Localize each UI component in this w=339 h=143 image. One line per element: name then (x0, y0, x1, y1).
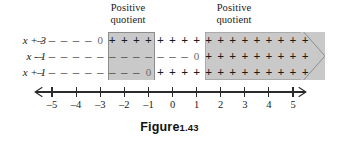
sign-cell-plus: + (239, 48, 251, 64)
sign-cell-minus: – (34, 64, 46, 80)
sign-cell-minus: – (82, 48, 94, 64)
sign-cell-plus: + (179, 64, 191, 80)
tick-label: 3 (234, 98, 256, 112)
figure-caption: Figure1.43 (0, 120, 339, 134)
sign-cell-plus: + (251, 64, 263, 80)
sign-cell-minus: – (46, 48, 58, 64)
sign-cell-plus: + (299, 48, 311, 64)
tick-label: 4 (258, 98, 280, 112)
sign-cell-zero: 0 (142, 64, 154, 80)
tick-label: 5 (282, 98, 304, 112)
sign-cell-plus: + (287, 48, 299, 64)
sign-cell-minus: – (34, 48, 46, 64)
sign-cell-plus: + (227, 64, 239, 80)
sign-cell-plus: + (239, 32, 251, 48)
sign-cell-minus: – (70, 32, 82, 48)
sign-cell-plus: + (263, 48, 275, 64)
sign-cell-minus: – (94, 48, 106, 64)
sign-cell-zero: 0 (191, 48, 203, 64)
sign-cell-minus: – (130, 48, 142, 64)
sign-cell-plus: + (275, 32, 287, 48)
figure-caption-label: Figure (140, 120, 179, 134)
sign-cell-plus: + (130, 32, 142, 48)
sign-cell-plus: + (275, 64, 287, 80)
sign-cell-plus: + (275, 48, 287, 64)
sign-cell-zero: 0 (94, 32, 106, 48)
sign-cell-plus: + (191, 32, 203, 48)
figure-caption-number: 1.43 (180, 122, 199, 133)
sign-cell-plus: + (167, 64, 179, 80)
tick-label: 2 (210, 98, 232, 112)
sign-cell-minus: – (58, 48, 70, 64)
sign-cell-minus: – (167, 48, 179, 64)
sign-cell-plus: + (239, 64, 251, 80)
sign-cell-plus: + (263, 32, 275, 48)
tick-label: 1 (186, 98, 208, 112)
tick-label: –3 (89, 98, 111, 112)
sign-cell-plus: + (203, 48, 215, 64)
sign-cell-plus: + (215, 32, 227, 48)
sign-cell-minus: – (94, 64, 106, 80)
sign-cell-minus: – (106, 48, 118, 64)
sign-cell-minus: – (34, 32, 46, 48)
sign-cell-plus: + (215, 64, 227, 80)
sign-cell-plus: + (154, 32, 166, 48)
sign-cell-minus: – (82, 64, 94, 80)
sign-cell-minus: – (142, 48, 154, 64)
tick-label: –4 (65, 98, 87, 112)
sign-cell-plus: + (118, 32, 130, 48)
sign-cell-plus: + (251, 32, 263, 48)
sign-cell-minus: – (118, 64, 130, 80)
sign-cell-plus: + (299, 64, 311, 80)
callout-positive-quotient-left: Positive quotient (98, 2, 158, 26)
sign-cell-minus: – (154, 48, 166, 64)
sign-cell-plus: + (142, 32, 154, 48)
callout-positive-quotient-right: Positive quotient (203, 2, 265, 26)
sign-cell-plus: + (154, 64, 166, 80)
sign-cell-plus: + (203, 32, 215, 48)
sign-cell-minus: – (130, 64, 142, 80)
tick-label: –2 (113, 98, 135, 112)
sign-cell-minus: – (179, 48, 191, 64)
sign-cell-plus: + (287, 32, 299, 48)
tick-label: 0 (162, 98, 184, 112)
sign-cell-plus: + (287, 64, 299, 80)
sign-cell-plus: + (263, 64, 275, 80)
sign-cell-minus: – (70, 64, 82, 80)
sign-cell-plus: + (203, 64, 215, 80)
sign-cell-plus: + (251, 48, 263, 64)
sign-cell-plus: + (179, 32, 191, 48)
sign-cell-minus: – (82, 32, 94, 48)
sign-cell-minus: – (106, 64, 118, 80)
sign-cell-plus: + (167, 32, 179, 48)
sign-chart-figure: Positive quotient Positive quotient x + … (0, 0, 339, 143)
sign-rows: x + 3 –––––0+++++++++++++++++ x - 1 ––––… (0, 32, 339, 80)
sign-cell-plus: + (106, 32, 118, 48)
sign-cell-plus: + (227, 32, 239, 48)
sign-cell-plus: + (191, 64, 203, 80)
sign-cell-minus: – (58, 64, 70, 80)
sign-cell-plus: + (299, 32, 311, 48)
sign-cell-plus: + (227, 48, 239, 64)
sign-row: x - 1 –––––––––––––0+++++++++ (0, 48, 339, 64)
tick-label: –1 (137, 98, 159, 112)
sign-cell-plus: + (215, 48, 227, 64)
sign-cell-minus: – (58, 32, 70, 48)
sign-cell-minus: – (46, 32, 58, 48)
sign-row: x + 1 –––––––––0+++++++++++++ (0, 64, 339, 80)
tick-label: –5 (41, 98, 63, 112)
sign-row: x + 3 –––––0+++++++++++++++++ (0, 32, 339, 48)
number-line: –5–4–3–2–1012345 (0, 84, 339, 114)
sign-cell-minus: – (70, 48, 82, 64)
sign-cell-minus: – (118, 48, 130, 64)
sign-cell-minus: – (46, 64, 58, 80)
